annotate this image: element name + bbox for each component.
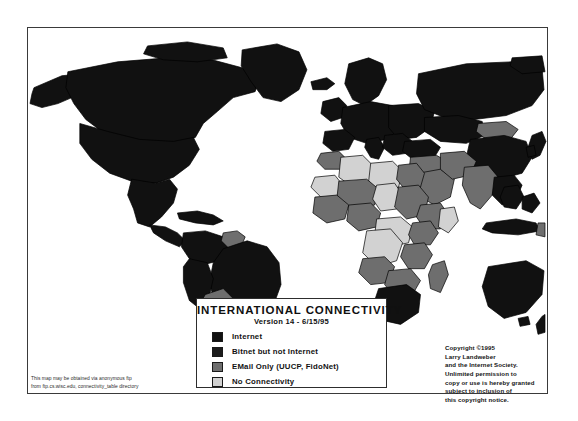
legend-item-email-only: EMail Only (UUCP, FidoNet) (197, 359, 386, 374)
legend-label-internet: Internet (232, 332, 262, 341)
country-new-guinea (536, 223, 545, 237)
legend-swatch-no-connectivity (212, 377, 223, 387)
country-korea (526, 145, 536, 157)
copyright-line-7: this copyright notice. (445, 396, 550, 405)
region-oceania (482, 261, 545, 335)
copyright-line-1: Copyright ©1995 (445, 344, 550, 353)
legend-swatch-email-only (212, 362, 223, 372)
country-caribbean (177, 211, 223, 225)
legend-item-no-connectivity: No Connectivity (197, 374, 386, 389)
legend-item-bitnet: Bitnet but not Internet (197, 344, 386, 359)
country-indonesia (482, 219, 540, 235)
ftp-note-line-1: This map may be obtained via anonymous f… (31, 375, 191, 383)
country-mexico (128, 179, 178, 227)
legend-label-bitnet: Bitnet but not Internet (232, 347, 318, 356)
country-scandinavia (345, 58, 387, 106)
country-philippines (522, 193, 540, 213)
copyright-line-5: copy or use is hereby granted (445, 379, 550, 388)
legend-item-internet: Internet (197, 329, 386, 344)
copyright-notice: Copyright ©1995 Larry Landweber and the … (445, 344, 550, 404)
copyright-line-6: subject to inclusion of (445, 387, 550, 396)
country-somalia (438, 207, 458, 233)
country-tasmania (518, 316, 530, 326)
ftp-availability-note: This map may be obtained via anonymous f… (31, 375, 191, 390)
country-madagascar (428, 261, 448, 293)
country-new-zealand (536, 314, 545, 334)
ftp-note-line-2: from ftp.cs.wisc.edu, connectivity_table… (31, 383, 191, 391)
legend-version: Version 14 - 6/15/95 (197, 317, 386, 326)
country-australia (482, 261, 544, 319)
legend-swatch-internet (212, 332, 223, 342)
legend-title: INTERNATIONAL CONNECTIVITY (197, 304, 386, 316)
legend-label-no-connectivity: No Connectivity (232, 377, 294, 386)
map-legend: INTERNATIONAL CONNECTIVITY Version 14 - … (196, 298, 387, 388)
map-figure-frame: INTERNATIONAL CONNECTIVITY Version 14 - … (27, 27, 548, 394)
country-central-america (150, 225, 186, 247)
copyright-line-4: Unlimited permission to (445, 370, 550, 379)
country-iceland (311, 78, 335, 90)
copyright-line-2: Larry Landweber (445, 353, 550, 362)
legend-label-email-only: EMail Only (UUCP, FidoNet) (232, 362, 339, 371)
country-tanzania (401, 243, 433, 269)
copyright-line-3: and the Internet Society. (445, 361, 550, 370)
legend-swatch-bitnet (212, 347, 223, 357)
region-north-america (30, 42, 307, 247)
